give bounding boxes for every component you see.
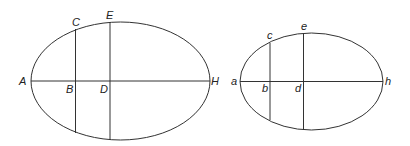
label-A: A bbox=[18, 75, 26, 87]
large-ellipse-figure: A B C D E H bbox=[18, 9, 219, 140]
label-D: D bbox=[100, 83, 108, 95]
label-a: a bbox=[231, 75, 237, 87]
label-B: B bbox=[66, 83, 73, 95]
small-ellipse-figure: a b c d e h bbox=[231, 20, 391, 130]
label-d: d bbox=[295, 82, 302, 94]
ellipse-diagram: A B C D E H a b c d e h bbox=[0, 0, 410, 146]
label-b: b bbox=[262, 82, 268, 94]
label-E: E bbox=[106, 9, 114, 21]
label-c: c bbox=[267, 29, 273, 41]
label-C: C bbox=[72, 16, 80, 28]
label-H: H bbox=[211, 75, 219, 87]
label-h: h bbox=[385, 75, 391, 87]
label-e: e bbox=[301, 20, 307, 32]
